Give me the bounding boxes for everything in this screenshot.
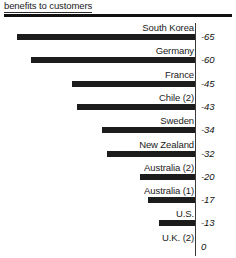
bar-category-label: U.S. [176,208,194,219]
bar [148,197,195,203]
bar [17,34,195,40]
bar-category-label: U.K. (2) [162,232,194,243]
bar [31,57,195,63]
bar-value-label: -34 [201,124,214,135]
chart-figure: benefits to customers South Korea-65Germ… [0,0,236,258]
bar-row: Sweden-34 [0,115,236,138]
bar [72,81,195,87]
bar-row: U.K. (2)0 [0,232,236,255]
chart-header: benefits to customers [4,0,232,20]
bar-value-label: 0 [201,241,206,252]
bar [102,127,195,133]
bar-chart-plot: South Korea-65Germany-60France-45Chile (… [0,21,236,258]
bar-value-label: -20 [201,171,214,182]
bar-row: France-45 [0,69,236,92]
bar-category-label: Australia (2) [144,162,194,173]
bar-category-label: Australia (1) [144,185,194,196]
bar-value-label: -17 [201,194,214,205]
bar-category-label: France [165,69,194,80]
bar-row: U.S.-13 [0,208,236,231]
bar [159,220,195,226]
bar [77,104,195,110]
bar-value-label: -65 [201,31,214,42]
bar-category-label: South Korea [142,22,194,33]
bar-value-label: -45 [201,78,214,89]
bar-value-label: -13 [201,217,214,228]
header-divider [4,14,232,17]
bar-row: New Zealand-32 [0,139,236,162]
bar-row: Germany-60 [0,45,236,68]
bar-category-label: Sweden [160,115,194,126]
bar-value-label: -60 [201,54,214,65]
bar-category-label: Chile (2) [159,92,194,103]
bar-row: Australia (2)-20 [0,162,236,185]
bar-value-label: -32 [201,148,214,159]
bar-category-label: Germany [156,45,194,56]
bar [140,174,195,180]
page-title: benefits to customers [4,0,92,13]
bar-category-label: New Zealand [139,139,194,150]
bar-row: South Korea-65 [0,22,236,45]
bar [107,151,195,157]
bar-value-label: -43 [201,101,214,112]
bar-row: Australia (1)-17 [0,185,236,208]
bar-row: Chile (2)-43 [0,92,236,115]
